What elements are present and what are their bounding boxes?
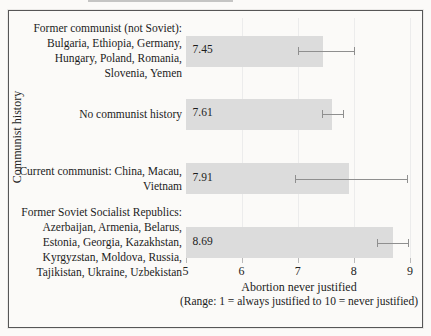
error-bar-cap-right [408, 239, 409, 247]
x-axis-subtitle: (Range: 1 = always justified to 10 = nev… [132, 295, 431, 307]
category-label: Former Soviet Socialist Republics:Azerba… [12, 205, 182, 280]
x-axis-tick [242, 258, 243, 263]
category-label-line: No communist history [12, 107, 182, 122]
category-label-line: Bulgaria, Ethiopia, Germany, [12, 36, 182, 51]
error-bar-cap-right [343, 110, 344, 118]
gridline [410, 18, 411, 258]
error-bar-line [295, 179, 408, 180]
error-bar-line [298, 51, 355, 52]
x-axis-title: Abortion never justified [147, 280, 431, 295]
category-label: Current communist: China, Macau,Vietnam [12, 164, 182, 194]
category-label: Former communist (not Soviet):Bulgaria, … [12, 21, 182, 81]
x-axis-tick-label: 8 [344, 264, 364, 279]
category-label-line: Azerbaijan, Armenia, Belarus, [12, 220, 182, 235]
bar-value-label: 7.91 [193, 171, 213, 183]
error-bar-line [377, 243, 408, 244]
error-bar-cap-left [295, 175, 296, 183]
category-label-line: Kyrgyzstan, Moldova, Russia, [12, 250, 182, 265]
error-bar-cap-right [354, 47, 355, 55]
x-axis-tick [186, 258, 187, 263]
x-axis-tick-label: 6 [232, 264, 252, 279]
x-axis-tick-label: 9 [400, 264, 420, 279]
error-bar-cap-left [298, 47, 299, 55]
bar [186, 227, 393, 258]
category-label: No communist history [12, 107, 182, 122]
category-label-line: Hungary, Poland, Romania, [12, 51, 182, 66]
bar-value-label: 7.45 [193, 43, 213, 55]
cropped-content-artifact [88, 0, 233, 2]
error-bar-line [322, 114, 344, 115]
x-axis-tick [354, 258, 355, 263]
category-label-line: Tajikistan, Ukraine, Uzbekistan [12, 265, 182, 280]
x-axis-tick [410, 258, 411, 263]
error-bar-cap-left [322, 110, 323, 118]
category-label-line: Slovenia, Yemen [12, 66, 182, 81]
x-axis-tick [298, 258, 299, 263]
category-label-line: Current communist: China, Macau, [12, 164, 182, 179]
category-label-line: Estonia, Georgia, Kazakhstan, [12, 235, 182, 250]
x-axis-tick-label: 7 [288, 264, 308, 279]
category-label-line: Former communist (not Soviet): [12, 21, 182, 36]
bar-value-label: 7.61 [193, 106, 213, 118]
error-bar-cap-right [407, 175, 408, 183]
category-label-line: Former Soviet Socialist Republics: [12, 205, 182, 220]
error-bar-cap-left [377, 239, 378, 247]
bar-value-label: 8.69 [193, 235, 213, 247]
category-label-line: Vietnam [12, 179, 182, 194]
bar-chart-figure: Communist history Abortion never justifi… [0, 0, 431, 336]
